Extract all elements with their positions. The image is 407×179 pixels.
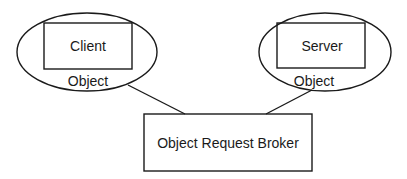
server-object-label: Object [294, 73, 335, 89]
corba-diagram: Client Object Server Object Object Reque… [0, 0, 407, 179]
broker-label: Object Request Broker [157, 135, 299, 151]
client-object-label: Object [68, 73, 109, 89]
object-request-broker: Object Request Broker [144, 114, 312, 171]
client-object: Client Object [17, 13, 157, 91]
server-label: Server [301, 38, 343, 54]
client-label: Client [70, 38, 106, 54]
server-object: Server Object [259, 13, 391, 91]
server-broker-connector [266, 90, 312, 114]
client-broker-connector [128, 85, 185, 114]
